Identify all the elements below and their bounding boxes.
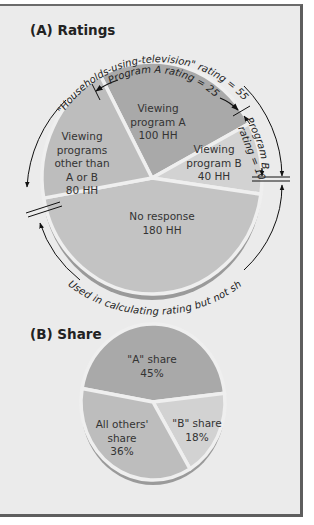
charts-canvas: Viewingprogram A100 HHViewingprogram B40… [0, 0, 314, 525]
